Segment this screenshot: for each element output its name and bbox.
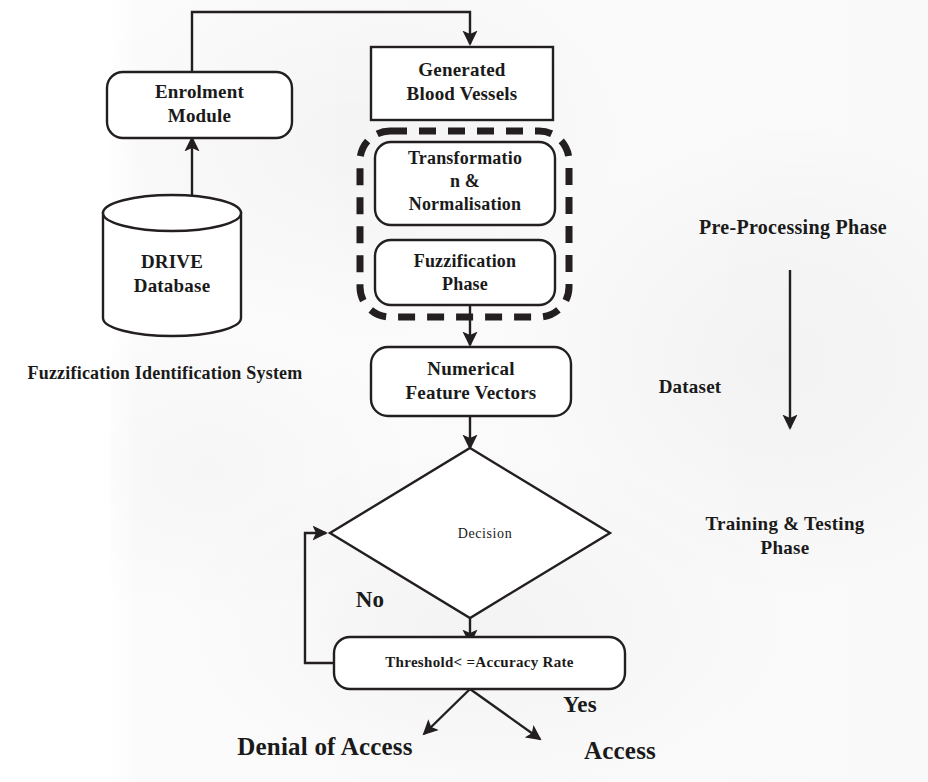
- outcome-access: Access: [540, 735, 700, 767]
- node-generated-blood-vessels-label: Generated Blood Vessels: [371, 58, 553, 107]
- node-drive-database-label: DRIVE Database: [103, 250, 241, 299]
- outcome-denial-of-access: Denial of Access: [200, 731, 450, 763]
- connector-threshold-to-denial: [424, 689, 470, 734]
- caption-pre-processing-phase: Pre-Processing Phase: [668, 215, 918, 241]
- node-threshold-label: Threshold< =Accuracy Rate: [334, 653, 625, 672]
- node-decision-label: Decision: [410, 525, 560, 543]
- branch-label-yes: Yes: [535, 690, 625, 719]
- node-enrolment-module-label: Enrolment Module: [107, 80, 292, 129]
- node-transformation-normalisation-label: Transformatio n & Normalisation: [375, 147, 555, 216]
- node-numerical-feature-vectors-label: Numerical Feature Vectors: [371, 357, 571, 406]
- connector-threshold-to-access: [470, 689, 540, 739]
- flowchart-canvas: Enrolment Module DRIVE Database Generate…: [0, 0, 928, 782]
- caption-dataset: Dataset: [620, 375, 760, 399]
- caption-fuzzification-identification-system: Fuzzification Identification System: [0, 362, 330, 385]
- node-fuzzification-phase-label: Fuzzification Phase: [375, 250, 555, 296]
- branch-label-no: No: [330, 585, 410, 614]
- caption-training-testing-phase: Training & Testing Phase: [660, 512, 910, 561]
